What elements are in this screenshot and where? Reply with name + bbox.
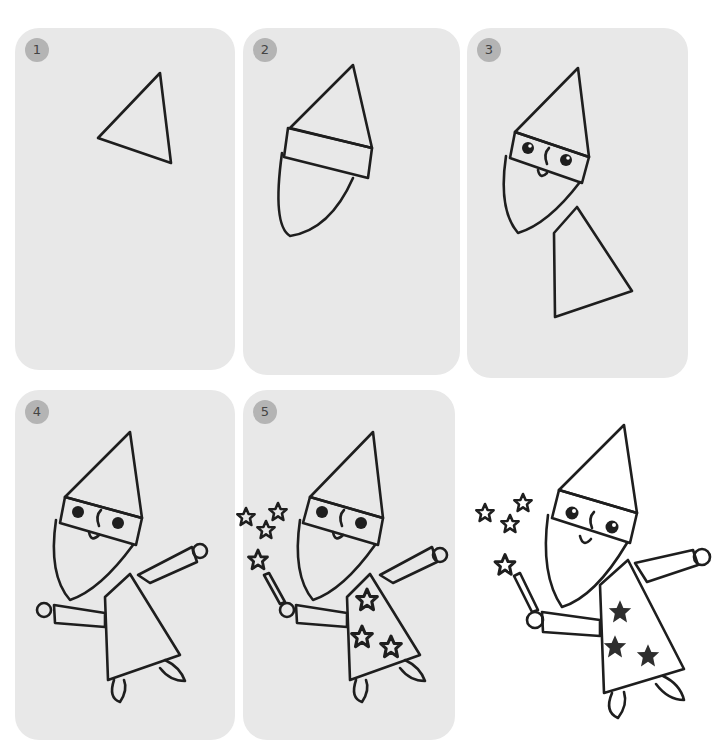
step4-drawing — [37, 432, 207, 702]
step3-drawing — [504, 68, 632, 317]
drawings — [0, 0, 728, 746]
step5-drawing — [237, 432, 447, 702]
finished-wizard — [476, 425, 710, 718]
hat-triangle-icon — [98, 73, 171, 163]
step2-drawing — [278, 65, 372, 236]
